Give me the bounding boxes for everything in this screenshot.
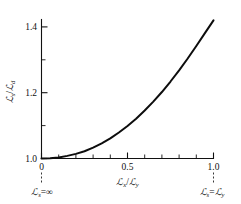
chart-figure: 1.0 1.2 1.4 0 0.5 1.0 ℒs/ℒd ℒx/ℒy ℒs=∞ ℒ… [0,0,241,204]
x-axis-title: ℒx/ℒy [116,177,139,188]
left-annot-value: ∞ [46,187,53,197]
y-tick-label-2: 1.4 [25,22,37,32]
y-tick-label-0: 1.0 [25,154,37,164]
y-axis-title: ℒs/ℒd [5,80,16,103]
x-tick-label-1: 0.5 [122,162,134,172]
x-tick-label-0: 0 [39,162,44,172]
right-annot-value-subscript: y [221,191,225,198]
chart-svg: 1.0 1.2 1.4 0 0.5 1.0 ℒs/ℒd ℒx/ℒy ℒs=∞ ℒ… [0,0,241,204]
y-tick-label-1: 1.2 [25,88,37,98]
y-title-denominator-sub: d [9,80,16,84]
x-title-denominator-sub: y [135,181,139,188]
right-endpoint-annotation: ℒs=ℒy [200,187,225,198]
y-axis-major-ticks [42,27,48,159]
svg-text:ℒs/ℒd: ℒs/ℒd [5,80,16,103]
left-endpoint-annotation: ℒs=∞ [31,187,53,198]
x-tick-label-2: 1.0 [208,162,220,172]
data-curve [42,20,214,158]
